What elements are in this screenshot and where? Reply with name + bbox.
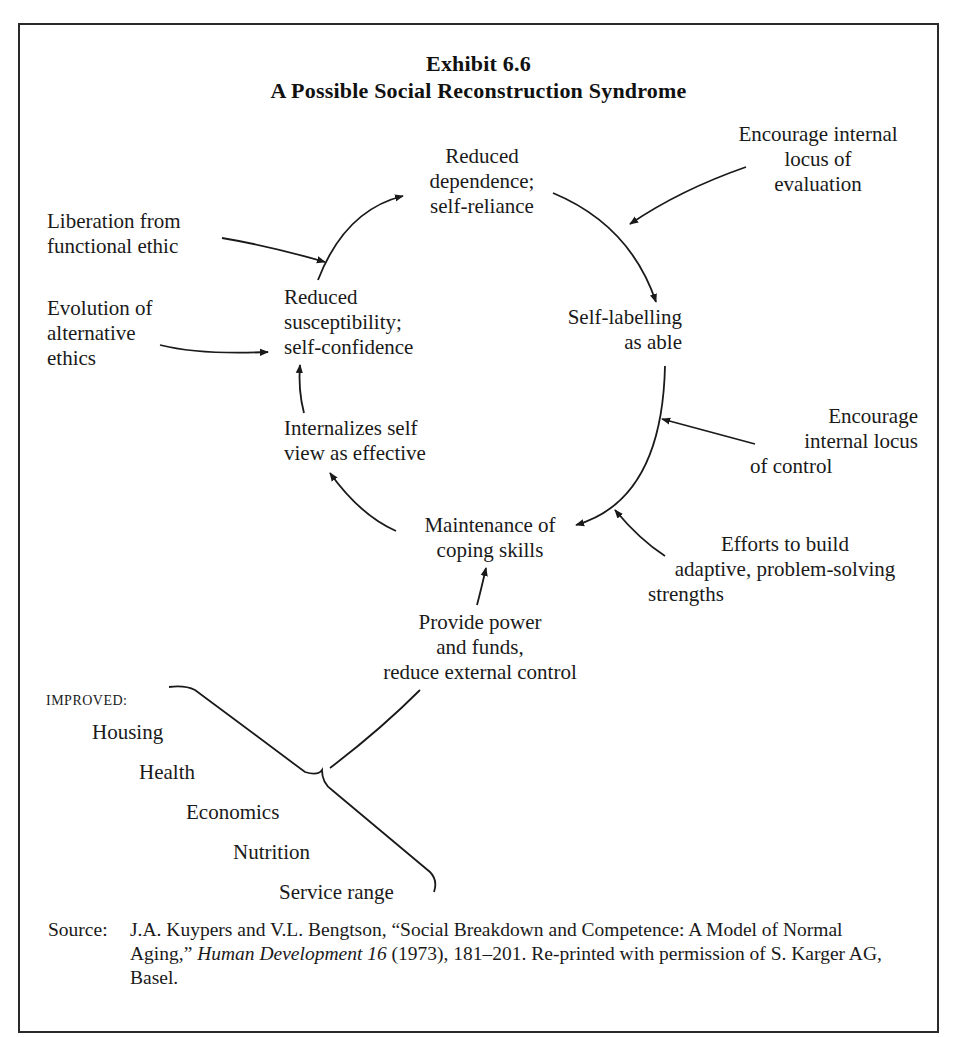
improved-item: Service range [279, 880, 394, 905]
input-line: Efforts to build [640, 532, 930, 557]
source-citation: Source: J.A. Kuypers and V.L. Bengtson, … [48, 918, 908, 990]
node-line: susceptibility; [284, 310, 413, 335]
node-line: Maintenance of [390, 513, 590, 538]
input-line: functional ethic [47, 234, 181, 259]
input-encourage-evaluation: Encourage internal locus of evaluation [714, 122, 922, 197]
input-line: of control [740, 454, 918, 479]
node-line: Internalizes self [284, 416, 426, 441]
node-reduced-susceptibility: Reduced susceptibility; self-confidence [284, 285, 413, 360]
input-line: adaptive, problem-solving [640, 557, 930, 582]
node-line: dependence; [402, 169, 562, 194]
improved-item: Economics [186, 800, 279, 825]
node-internalizes: Internalizes self view as effective [284, 416, 426, 466]
input-encourage-control: Encourage internal locus of control [740, 404, 918, 479]
node-line: self-confidence [284, 335, 413, 360]
node-line: Reduced [284, 285, 413, 310]
input-line: locus of [714, 147, 922, 172]
input-line: Encourage internal [714, 122, 922, 147]
exhibit-number: Exhibit 6.6 [0, 51, 957, 77]
input-line: ethics [47, 346, 153, 371]
input-line: alternative [47, 321, 153, 346]
exhibit-title: A Possible Social Reconstruction Syndrom… [0, 78, 957, 104]
improved-item: Housing [92, 720, 163, 745]
node-line: Self-labelling [520, 305, 682, 330]
node-self-labelling: Self-labelling as able [520, 305, 682, 355]
input-line: Provide power [345, 610, 615, 635]
source-body: J.A. Kuypers and V.L. Bengtson, “Social … [130, 918, 908, 990]
input-line: Encourage [740, 404, 918, 429]
improved-item: Health [139, 760, 195, 785]
input-line: internal locus [740, 429, 918, 454]
source-label: Source: [48, 918, 108, 942]
improved-item: Nutrition [233, 840, 310, 865]
node-line: Reduced [402, 144, 562, 169]
input-line: evaluation [714, 172, 922, 197]
node-reduced-dependence: Reduced dependence; self-reliance [402, 144, 562, 219]
input-evolution: Evolution of alternative ethics [47, 296, 153, 371]
improved-heading: IMPROVED: [46, 688, 128, 713]
node-line: coping skills [390, 538, 590, 563]
input-provide-power: Provide power and funds, reduce external… [345, 610, 615, 685]
input-line: reduce external control [345, 660, 615, 685]
node-line: view as effective [284, 441, 426, 466]
node-line: as able [520, 330, 682, 355]
input-line: Liberation from [47, 209, 181, 234]
input-line: Evolution of [47, 296, 153, 321]
input-liberation: Liberation from functional ethic [47, 209, 181, 259]
node-line: self-reliance [402, 194, 562, 219]
node-maintenance: Maintenance of coping skills [390, 513, 590, 563]
input-line: strengths [640, 582, 930, 607]
source-journal: Human Development 16 [197, 943, 387, 964]
input-line: and funds, [345, 635, 615, 660]
input-efforts: Efforts to build adaptive, problem-solvi… [640, 532, 930, 607]
